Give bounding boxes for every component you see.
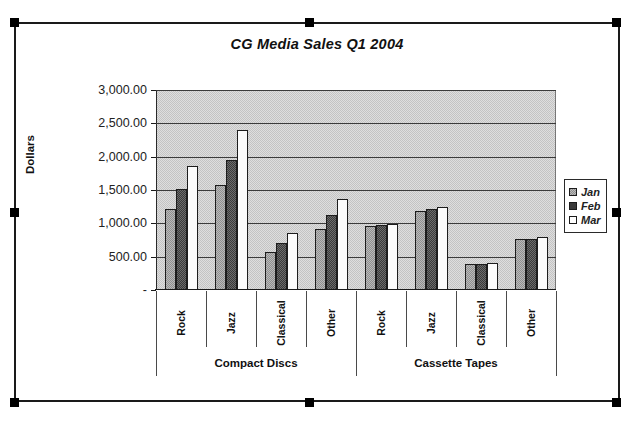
bar-mar[interactable] xyxy=(337,199,348,290)
bar-jan[interactable] xyxy=(415,211,426,290)
chart-object[interactable]: CG Media Sales Q1 2004 Dollars 3,000.002… xyxy=(14,22,620,402)
bar-feb[interactable] xyxy=(476,264,487,290)
category-label-cell: Classical xyxy=(256,291,306,351)
legend-item-jan[interactable]: Jan xyxy=(569,186,601,198)
legend-label: Jan xyxy=(581,186,600,198)
bar-jan[interactable] xyxy=(465,264,476,290)
category-separator-tick xyxy=(206,291,207,347)
group-label: Cassette Tapes xyxy=(356,354,556,384)
x-axis-line xyxy=(155,289,556,290)
bar-feb[interactable] xyxy=(276,243,287,290)
bar-mar[interactable] xyxy=(437,207,448,290)
category-label-cell: Jazz xyxy=(406,291,456,351)
y-axis-tick-label: 3,000.00 xyxy=(98,83,147,97)
category-label: Jazz xyxy=(425,312,437,334)
bar-jan[interactable] xyxy=(365,226,376,290)
selection-handle-bottom-right[interactable] xyxy=(612,398,621,407)
selection-handle-bottom-middle[interactable] xyxy=(305,398,314,407)
chart-legend[interactable]: JanFebMar xyxy=(564,179,607,233)
bar-feb[interactable] xyxy=(176,189,187,290)
bar-jan[interactable] xyxy=(515,239,526,290)
bar-mar[interactable] xyxy=(237,130,248,290)
bar-group xyxy=(456,90,506,290)
group-separator-tick xyxy=(156,291,157,376)
y-axis-tick-mark xyxy=(151,190,156,191)
bar-jan[interactable] xyxy=(215,185,226,290)
plot-wrap: 3,000.002,500.002,000.001,500.001,000.00… xyxy=(156,90,556,290)
category-label-cell: Classical xyxy=(456,291,506,351)
selection-handle-bottom-left[interactable] xyxy=(10,398,19,407)
y-axis-tick-mark xyxy=(151,157,156,158)
y-axis-tick-label: 500.00 xyxy=(109,250,147,264)
selection-handle-middle-right[interactable] xyxy=(612,208,621,217)
selection-handle-top-right[interactable] xyxy=(612,18,621,27)
y-axis-tick-mark xyxy=(151,90,156,91)
group-separator-tick xyxy=(356,291,357,376)
category-label: Classical xyxy=(475,300,487,346)
bar-mar[interactable] xyxy=(387,224,398,290)
bar-mar[interactable] xyxy=(287,233,298,290)
category-separator-tick xyxy=(306,291,307,347)
bar-jan[interactable] xyxy=(315,229,326,290)
category-label: Rock xyxy=(175,310,187,336)
bar-feb[interactable] xyxy=(426,209,437,290)
legend-item-mar[interactable]: Mar xyxy=(569,214,601,226)
bar-group xyxy=(256,90,306,290)
bar-group xyxy=(156,90,206,290)
bars-layer xyxy=(156,90,556,290)
bar-feb[interactable] xyxy=(526,239,537,290)
category-label: Classical xyxy=(275,300,287,346)
y-axis-tick-label: 2,000.00 xyxy=(98,150,147,164)
y-axis-tick-mark xyxy=(151,223,156,224)
bar-feb[interactable] xyxy=(326,215,337,290)
bar-mar[interactable] xyxy=(187,166,198,290)
y-axis-tick-label: 1,500.00 xyxy=(98,183,147,197)
bar-jan[interactable] xyxy=(265,252,276,290)
category-label-cell: Other xyxy=(506,291,556,351)
legend-swatch-feb xyxy=(569,202,577,210)
bar-feb[interactable] xyxy=(226,160,237,290)
y-axis-tick-mark xyxy=(151,257,156,258)
bar-group xyxy=(356,90,406,290)
category-label-cell: Rock xyxy=(356,291,406,351)
group-label: Compact Discs xyxy=(156,354,356,384)
category-label-cell: Rock xyxy=(156,291,206,351)
chart-title: CG Media Sales Q1 2004 xyxy=(16,36,618,52)
y-axis-tick-label: 2,500.00 xyxy=(98,116,147,130)
bar-jan[interactable] xyxy=(165,209,176,290)
category-label: Other xyxy=(525,309,537,337)
bar-mar[interactable] xyxy=(487,263,498,290)
legend-label: Mar xyxy=(581,214,601,226)
category-separator-tick xyxy=(506,291,507,347)
category-label: Jazz xyxy=(225,312,237,334)
bar-mar[interactable] xyxy=(537,237,548,290)
category-label-cell: Other xyxy=(306,291,356,351)
bar-group xyxy=(206,90,256,290)
legend-swatch-mar xyxy=(569,216,577,224)
bar-group xyxy=(306,90,356,290)
selection-handle-top-middle[interactable] xyxy=(305,18,314,27)
y-axis-title: Dollars xyxy=(24,135,36,174)
y-axis-tick-mark xyxy=(151,290,156,291)
category-label-cell: Jazz xyxy=(206,291,256,351)
category-label: Rock xyxy=(375,310,387,336)
category-separator-tick xyxy=(256,291,257,347)
category-label: Other xyxy=(325,309,337,337)
bar-feb[interactable] xyxy=(376,225,387,290)
category-separator-tick xyxy=(456,291,457,347)
bar-group xyxy=(506,90,556,290)
selection-handle-top-left[interactable] xyxy=(10,18,19,27)
legend-label: Feb xyxy=(581,200,601,212)
y-axis-tick-label: 1,000.00 xyxy=(98,216,147,230)
group-separator-tick xyxy=(556,291,557,376)
selection-handle-middle-left[interactable] xyxy=(10,208,19,217)
bar-group xyxy=(406,90,456,290)
y-axis-tick-label: - xyxy=(143,283,147,297)
group-label-row: Compact DiscsCassette Tapes xyxy=(156,354,556,384)
y-axis-tick-mark xyxy=(151,123,156,124)
legend-item-feb[interactable]: Feb xyxy=(569,200,601,212)
category-separator-tick xyxy=(406,291,407,347)
legend-swatch-jan xyxy=(569,188,577,196)
